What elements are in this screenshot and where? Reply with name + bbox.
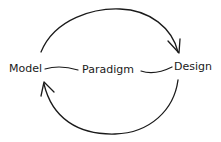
arrow-design-to-model [44, 80, 178, 134]
node-model: Model [9, 63, 42, 75]
node-paradigm: Paradigm [82, 64, 134, 76]
cycle-diagram: Model Paradigm Design [0, 0, 221, 142]
arrow-model-to-design [41, 9, 178, 52]
line-model-paradigm [45, 67, 78, 70]
node-design: Design [174, 61, 212, 73]
line-paradigm-design [141, 67, 172, 72]
